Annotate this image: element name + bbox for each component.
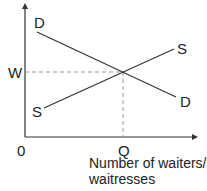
demand-label-start: D xyxy=(34,15,45,30)
supply-label-end: S xyxy=(177,41,187,56)
demand-curve xyxy=(37,32,176,97)
w-tick-label: W xyxy=(8,65,22,80)
supply-curve xyxy=(44,49,174,108)
x-axis-title-line1: Number of waiters/ xyxy=(89,155,206,171)
supply-label-start: S xyxy=(32,104,42,119)
x-axis-title-line2: waitresses xyxy=(89,171,206,187)
x-axis-arrow-icon xyxy=(192,134,198,140)
y-axis-arrow-icon xyxy=(22,3,28,9)
origin-label: 0 xyxy=(17,143,25,158)
demand-label-end: D xyxy=(180,94,191,109)
x-axis-title: Number of waiters/ waitresses xyxy=(89,155,206,187)
